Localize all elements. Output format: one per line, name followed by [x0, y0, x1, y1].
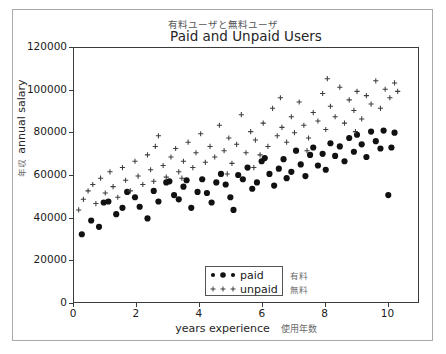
data-point-unpaid: [176, 169, 181, 174]
y-tick-mark: [69, 132, 73, 133]
x-axis-label-japanese: 使用年数: [281, 322, 317, 335]
data-point-unpaid: [311, 110, 316, 115]
data-point-unpaid: [145, 152, 150, 157]
data-point-unpaid: [378, 106, 383, 111]
data-point-unpaid: [103, 190, 108, 195]
legend-item-unpaid[interactable]: unpaid: [206, 282, 282, 296]
x-tick-label: 2: [116, 307, 156, 319]
x-tick-mark: [325, 303, 326, 307]
data-point-unpaid: [153, 144, 158, 149]
data-point-unpaid: [132, 159, 137, 164]
legend-marker-plus-icon: [206, 282, 240, 296]
data-point-unpaid: [279, 125, 284, 130]
data-point-paid: [310, 144, 316, 150]
data-point-paid: [188, 205, 194, 211]
data-point-unpaid: [115, 195, 120, 200]
data-point-paid: [346, 135, 352, 141]
data-point-paid: [302, 173, 308, 179]
y-tick-mark: [69, 218, 73, 219]
data-point-unpaid: [275, 133, 280, 138]
data-point-unpaid: [270, 106, 275, 111]
data-point-unpaid: [161, 163, 166, 168]
data-point-paid: [171, 192, 177, 198]
legend-item-paid[interactable]: paid: [206, 268, 282, 282]
y-tick-label: 60000: [3, 168, 67, 180]
data-point-unpaid: [203, 160, 208, 165]
y-tick-label: 20000: [3, 253, 67, 265]
data-point-paid: [235, 172, 241, 178]
data-point-unpaid: [173, 146, 178, 151]
y-tick-mark: [69, 175, 73, 176]
data-point-unpaid: [328, 104, 333, 109]
data-point-unpaid: [222, 148, 227, 153]
data-point-paid: [244, 165, 250, 171]
data-point-paid: [88, 217, 94, 223]
data-point-unpaid: [226, 135, 231, 140]
plot-area: [73, 47, 419, 303]
x-tick-mark: [136, 303, 137, 307]
x-tick-label: 10: [368, 307, 408, 319]
data-point-unpaid: [251, 165, 256, 170]
data-point-unpaid: [320, 91, 325, 96]
data-point-paid: [298, 161, 304, 167]
data-point-paid: [223, 181, 229, 187]
data-point-unpaid: [190, 165, 195, 170]
data-point-unpaid: [359, 116, 364, 121]
data-point-paid: [204, 190, 210, 196]
data-point-unpaid: [284, 140, 289, 145]
data-point-unpaid: [76, 207, 81, 212]
data-point-paid: [354, 132, 360, 138]
x-axis-label-group: years experience 使用年数: [73, 322, 419, 335]
data-point-paid: [176, 196, 182, 202]
data-point-unpaid: [156, 133, 161, 138]
screenshot-page: 有料ユーザと無料ユーザ Paid and Unpaid Users 年収 ann…: [0, 0, 446, 354]
data-point-unpaid: [225, 171, 230, 176]
data-point-paid: [119, 205, 125, 211]
data-point-unpaid: [81, 197, 86, 202]
data-point-unpaid: [181, 159, 186, 164]
x-tick-mark: [262, 303, 263, 307]
data-point-paid: [271, 183, 277, 189]
data-point-paid: [368, 129, 374, 135]
legend-japanese-unpaid: 無料: [290, 283, 308, 295]
data-point-paid: [137, 204, 143, 210]
data-point-unpaid: [364, 93, 369, 98]
data-point-paid: [315, 162, 321, 168]
data-point-paid: [105, 198, 111, 204]
data-point-unpaid: [111, 184, 116, 189]
data-point-unpaid: [292, 130, 297, 135]
data-point-unpaid: [107, 169, 112, 174]
data-point-paid: [155, 198, 161, 204]
data-point-paid: [230, 207, 236, 213]
legend-label-paid: paid: [240, 269, 264, 282]
data-point-unpaid: [315, 118, 320, 123]
y-tick-mark: [69, 260, 73, 261]
data-point-paid: [388, 144, 394, 150]
data-point-unpaid: [90, 182, 95, 187]
data-point-paid: [254, 179, 260, 185]
x-tick-label: 0: [53, 307, 93, 319]
chart-legend[interactable]: paid unpaid: [205, 266, 283, 296]
x-tick-mark: [388, 303, 389, 307]
data-point-unpaid: [301, 123, 306, 128]
y-tick-label: 80000: [3, 125, 67, 137]
data-point-unpaid: [229, 161, 234, 166]
y-tick-mark: [69, 47, 73, 48]
data-point-unpaid: [261, 121, 266, 126]
data-point-paid: [79, 231, 85, 237]
data-point-paid: [351, 149, 357, 155]
data-point-paid: [132, 194, 138, 200]
data-point-paid: [385, 192, 391, 198]
data-point-paid: [391, 130, 397, 136]
data-point-unpaid: [325, 76, 330, 81]
y-tick-mark: [69, 90, 73, 91]
data-point-paid: [113, 211, 119, 217]
legend-marker-filled-circle-icon: [206, 268, 240, 282]
data-point-unpaid: [123, 178, 128, 183]
data-point-paid: [194, 189, 200, 195]
data-point-unpaid: [120, 165, 125, 170]
data-point-paid: [293, 148, 299, 154]
data-point-paid: [151, 188, 157, 194]
data-point-paid: [377, 145, 383, 151]
data-point-unpaid: [253, 137, 258, 142]
